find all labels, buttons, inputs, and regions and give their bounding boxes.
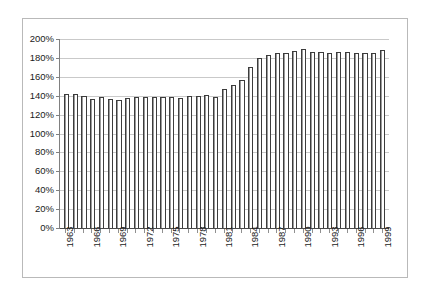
bar-slot: [62, 39, 71, 228]
x-label-slot: 1981: [220, 235, 229, 279]
bar-slot: [106, 39, 115, 228]
bar: [362, 53, 367, 228]
bar: [354, 53, 359, 228]
x-axis-tick: [83, 229, 84, 233]
bar-slot: [308, 39, 317, 228]
bar-slot: [273, 39, 282, 228]
x-label-slot: [123, 235, 132, 279]
bar: [275, 53, 280, 228]
y-axis-label: 80%: [35, 148, 54, 158]
bar: [231, 85, 236, 228]
x-label-slot: [281, 235, 290, 279]
bar-slot: [343, 39, 352, 228]
x-axis-tick: [241, 229, 242, 233]
y-axis-label: 180%: [30, 53, 54, 63]
x-axis-tick: [347, 229, 348, 233]
bar: [187, 96, 192, 228]
bar-slot: [115, 39, 124, 228]
bar: [301, 49, 306, 228]
bar: [266, 55, 271, 228]
x-axis-tick: [109, 229, 110, 233]
x-label-slot: [96, 235, 105, 279]
x-label-slot: [369, 235, 378, 279]
bar: [160, 97, 165, 228]
plot-area: 200%180%160%140%120%100%80%60%40%20%0%: [59, 39, 389, 229]
bar: [380, 50, 385, 228]
bar: [239, 80, 244, 228]
bar: [327, 53, 332, 228]
bar-slot: [334, 39, 343, 228]
bar: [125, 98, 130, 228]
x-label-slot: [149, 235, 158, 279]
bar-slot: [229, 39, 238, 228]
bar: [108, 99, 113, 228]
x-label-slot: [255, 235, 264, 279]
bar-slot: [369, 39, 378, 228]
x-label-slot: [176, 235, 185, 279]
bar-slot: [325, 39, 334, 228]
bar-slot: [71, 39, 80, 228]
x-label-slot: [290, 235, 299, 279]
bar-slot: [282, 39, 291, 228]
bar: [143, 97, 148, 228]
y-axis-label: 20%: [35, 204, 54, 214]
x-axis-tick: [268, 229, 269, 233]
x-label-slot: [264, 235, 273, 279]
y-axis-label: 120%: [30, 110, 54, 120]
x-label-slot: 1972: [140, 235, 149, 279]
x-label-slot: [308, 235, 317, 279]
y-axis-label: 40%: [35, 185, 54, 195]
bar-slot: [150, 39, 159, 228]
x-label-slot: [132, 235, 141, 279]
x-label-slot: [158, 235, 167, 279]
x-axis-tick: [215, 229, 216, 233]
x-axis-tick: [294, 229, 295, 233]
x-axis-label: 1999: [383, 226, 393, 247]
bar-slot: [167, 39, 176, 228]
x-label-slot: [70, 235, 79, 279]
bar-slot: [238, 39, 247, 228]
x-label-slot: 1990: [299, 235, 308, 279]
x-label-slot: 1978: [193, 235, 202, 279]
bar-series: [60, 39, 389, 228]
bar: [213, 97, 218, 228]
x-axis-tick: [373, 229, 374, 233]
bar: [283, 53, 288, 228]
y-axis-label: 100%: [30, 129, 54, 139]
bar-slot: [352, 39, 361, 228]
bar: [90, 99, 95, 228]
x-label-slot: [202, 235, 211, 279]
bar: [292, 51, 297, 228]
x-axis-tick: [320, 229, 321, 233]
y-axis-label: 160%: [30, 72, 54, 82]
x-label-slot: 1975: [167, 235, 176, 279]
bar-slot: [264, 39, 273, 228]
bar: [204, 95, 209, 228]
bar-slot: [246, 39, 255, 228]
bar-slot: [290, 39, 299, 228]
x-label-slot: 1966: [87, 235, 96, 279]
x-axis-tick: [162, 229, 163, 233]
bar-slot: [317, 39, 326, 228]
bar: [81, 96, 86, 228]
bar-slot: [141, 39, 150, 228]
bar: [64, 94, 69, 228]
bar: [116, 100, 121, 228]
bar: [318, 52, 323, 228]
x-label-slot: [317, 235, 326, 279]
x-label-slot: [237, 235, 246, 279]
x-label-slot: 1969: [114, 235, 123, 279]
bar-slot: [299, 39, 308, 228]
x-label-slot: 1963: [61, 235, 70, 279]
bar-slot: [203, 39, 212, 228]
bar-slot: [378, 39, 387, 228]
x-label-slot: 1987: [273, 235, 282, 279]
bar: [152, 97, 157, 228]
bar-slot: [97, 39, 106, 228]
bar-slot: [80, 39, 89, 228]
x-label-slot: [211, 235, 220, 279]
bar: [73, 94, 78, 228]
x-label-slot: [79, 235, 88, 279]
bar-slot: [361, 39, 370, 228]
bar: [345, 52, 350, 228]
